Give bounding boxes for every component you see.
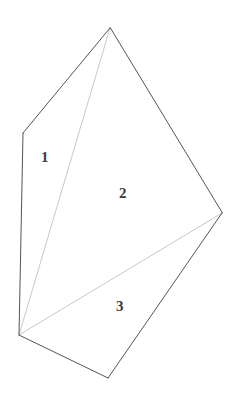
figure-canvas: 1 2 3 bbox=[0, 0, 241, 394]
region-label-1: 1 bbox=[41, 150, 49, 165]
region-label-3: 3 bbox=[116, 299, 124, 314]
vertex-apex bbox=[109, 27, 110, 28]
vertex-bottom bbox=[107, 377, 108, 378]
polygon-fill bbox=[19, 28, 222, 378]
vertex-left-upper bbox=[22, 132, 23, 133]
vertex-right bbox=[221, 212, 222, 213]
region-label-2: 2 bbox=[119, 186, 127, 201]
vertex-bottom-left bbox=[18, 334, 19, 335]
